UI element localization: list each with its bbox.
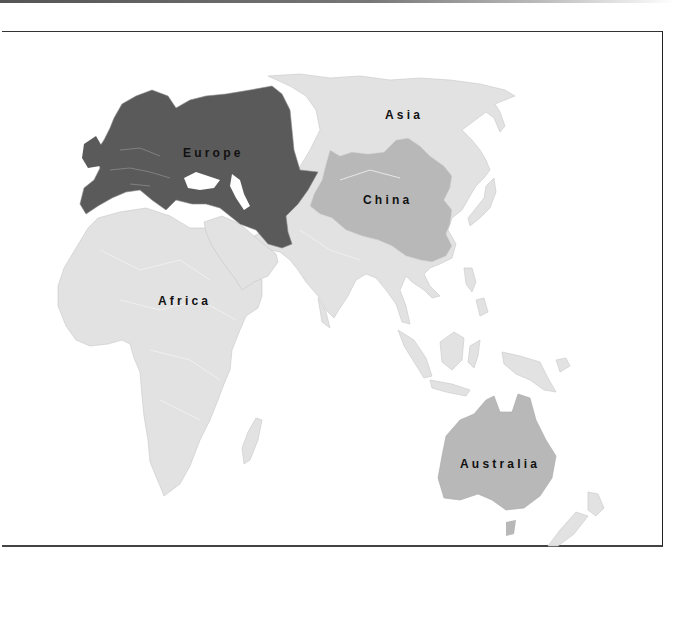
label-europe: Europe [183,146,244,160]
tasmania-region [506,520,516,536]
uk-region [82,136,104,168]
madagascar-region [242,418,262,464]
australia-region [438,394,556,510]
label-australia: Australia [460,457,540,471]
southeast-asia-islands [318,268,570,396]
label-asia: Asia [385,108,423,122]
new-zealand-region [548,492,604,546]
world-map [0,0,675,633]
label-china: China [363,193,412,207]
label-africa: Africa [158,294,211,308]
